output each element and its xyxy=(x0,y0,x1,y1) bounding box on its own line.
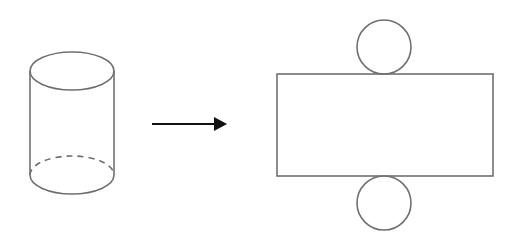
net-bottom-circle xyxy=(357,176,411,230)
cylinder-3d xyxy=(30,52,114,194)
cylinder-net xyxy=(277,20,493,230)
cylinder-net-diagram xyxy=(0,0,521,244)
transform-arrow xyxy=(152,117,227,131)
cylinder-top-face xyxy=(30,52,114,90)
cylinder-bottom-front-edge xyxy=(30,175,114,194)
arrow-head-icon xyxy=(214,117,227,131)
net-top-circle xyxy=(357,20,411,74)
cylinder-bottom-hidden-edge xyxy=(30,156,114,175)
net-lateral-rectangle xyxy=(277,74,493,176)
